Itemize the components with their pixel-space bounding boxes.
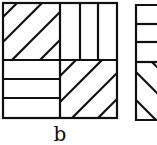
square-c-partial — [134, 5, 157, 124]
bottom-left-quadrant-horizontals — [3, 79, 60, 98]
square-b — [0, 0, 122, 120]
pattern-figure — [0, 0, 157, 145]
bottom-diagonals-backward — [134, 60, 157, 124]
top-right-quadrant-verticals — [80, 3, 98, 60]
bottom-right-quadrant-diagonals — [58, 58, 122, 120]
figure-caption: b — [50, 124, 70, 144]
